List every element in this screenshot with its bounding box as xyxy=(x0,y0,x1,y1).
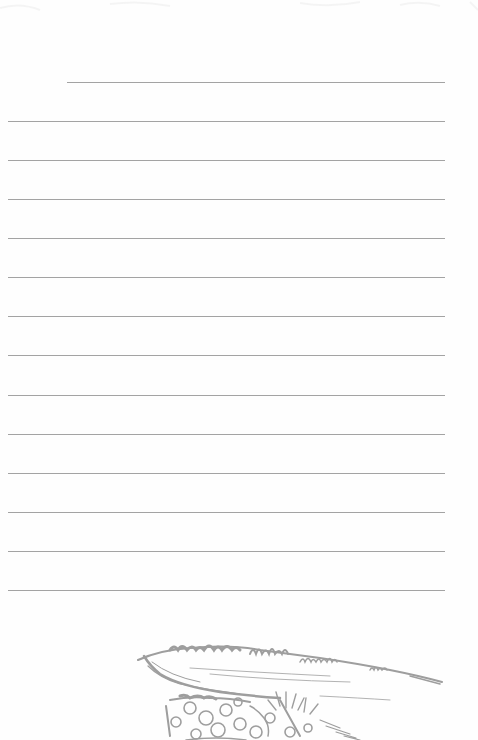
landscape-illustration xyxy=(130,636,450,740)
writing-line-indented xyxy=(67,82,445,83)
writing-line xyxy=(8,434,445,435)
writing-line xyxy=(8,316,445,317)
writing-line xyxy=(8,121,445,122)
writing-line xyxy=(8,512,445,513)
stationery-page xyxy=(0,0,478,740)
writing-line xyxy=(8,355,445,356)
writing-line xyxy=(8,395,445,396)
writing-line xyxy=(8,160,445,161)
writing-line xyxy=(8,551,445,552)
writing-line xyxy=(8,277,445,278)
writing-line xyxy=(8,473,445,474)
writing-line xyxy=(8,199,445,200)
writing-line xyxy=(8,590,445,591)
paper-bleed-through xyxy=(0,0,478,40)
writing-line xyxy=(8,238,445,239)
